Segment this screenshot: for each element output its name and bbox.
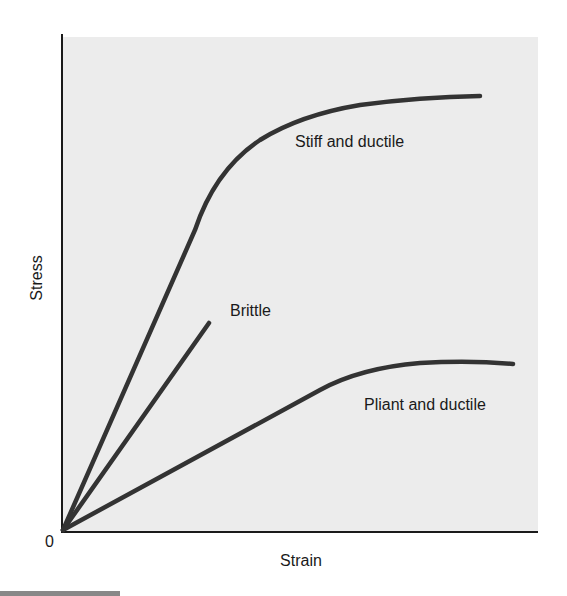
brittle-curve	[63, 323, 209, 530]
y-axis-label: Stress	[28, 255, 46, 300]
stiff-ductile-label: Stiff and ductile	[295, 133, 404, 151]
x-axis-label: Strain	[280, 552, 322, 570]
pliant-ductile-curve	[63, 362, 513, 530]
origin-label: 0	[45, 533, 54, 551]
stiff-ductile-curve	[63, 96, 480, 530]
stress-strain-chart	[0, 0, 567, 596]
footer-bar	[0, 591, 120, 596]
brittle-label: Brittle	[230, 302, 271, 320]
pliant-ductile-label: Pliant and ductile	[364, 396, 486, 414]
